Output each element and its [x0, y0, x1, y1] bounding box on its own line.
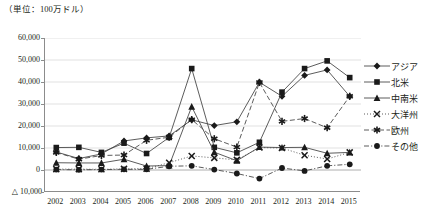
legend-marker-diamond-icon: [364, 59, 390, 73]
series-0: [53, 67, 353, 162]
legend-item-4[interactable]: 欧州: [364, 122, 434, 138]
x-axis-tick-label: 2013: [292, 197, 315, 206]
legend-marker-circle-icon: [364, 139, 390, 153]
unit-label: （単位：100万ドル）: [4, 2, 89, 14]
chart-container: （単位：100万ドル） 60,00050,00040,00030,00020,0…: [0, 0, 434, 214]
y-axis-tick-label: 10,000: [0, 143, 40, 152]
data-point-marker: [324, 58, 330, 64]
y-axis-tick: [41, 192, 44, 193]
x-axis-tick-label: 2010: [225, 197, 248, 206]
data-point-marker: [121, 140, 127, 146]
data-point-marker: [99, 167, 105, 173]
legend-label: 欧州: [391, 124, 409, 137]
data-point-marker: [279, 89, 285, 95]
data-point-marker: [121, 166, 127, 172]
legend-item-5[interactable]: その他: [364, 138, 434, 154]
y-axis-tick: [41, 82, 44, 83]
data-point-marker: [166, 163, 172, 169]
legend-label: その他: [391, 140, 418, 153]
data-point-marker: [324, 156, 330, 162]
y-axis-tick-label: △ 10,000: [0, 187, 42, 196]
x-axis-tick-label: 2002: [44, 197, 67, 206]
legend-marker-square-icon: [364, 75, 390, 89]
x-axis-tick-label: 2009: [202, 197, 225, 206]
x-axis-tick-label: 2011: [247, 197, 270, 206]
chart-legend: アジア北米中南米大洋州欧州その他: [364, 58, 434, 154]
chart-svg: [45, 38, 361, 192]
y-axis-tick-label: 40,000: [0, 77, 40, 86]
data-point-marker: [301, 115, 307, 122]
data-point-marker: [211, 155, 217, 161]
y-axis-tick-label: 60,000: [0, 33, 40, 42]
legend-marker-triangle-icon: [364, 91, 390, 105]
data-point-marker: [144, 166, 150, 172]
data-point-marker: [302, 168, 308, 174]
series-3: [53, 145, 352, 173]
y-axis-tick-label: 50,000: [0, 55, 40, 64]
y-axis-tick-label: 20,000: [0, 121, 40, 130]
x-axis-tick-label: 2004: [89, 197, 112, 206]
data-point-marker: [324, 163, 330, 169]
data-point-marker: [279, 165, 285, 171]
legend-item-2[interactable]: 中南米: [364, 90, 434, 106]
x-axis-tick-label: 2006: [134, 197, 157, 206]
legend-marker-asterisk-icon: [364, 123, 390, 137]
data-point-marker: [233, 118, 240, 125]
y-axis-tick-label: 0: [0, 165, 40, 174]
x-axis-tick-label: 2012: [270, 197, 293, 206]
data-point-marker: [144, 151, 150, 157]
legend-label: 北米: [391, 76, 409, 89]
legend-label: 中南米: [391, 92, 418, 105]
data-point-marker: [374, 79, 380, 85]
x-axis-tick-label: 2005: [112, 197, 135, 206]
data-point-marker: [211, 167, 217, 173]
data-point-marker: [189, 153, 195, 159]
data-point-marker: [76, 145, 82, 151]
data-point-marker: [374, 63, 381, 70]
data-point-marker: [374, 143, 380, 149]
data-point-marker: [347, 161, 353, 167]
x-axis-tick-label: 2007: [157, 197, 180, 206]
legend-item-3[interactable]: 大洋州: [364, 106, 434, 122]
data-point-marker: [211, 122, 218, 129]
data-point-marker: [302, 152, 308, 158]
y-axis-tick: [41, 38, 44, 39]
series-5: [53, 161, 352, 181]
data-point-marker: [234, 144, 240, 151]
series-1: [53, 58, 352, 156]
data-point-marker: [234, 171, 240, 177]
data-point-marker: [347, 75, 353, 81]
y-axis-tick: [41, 148, 44, 149]
legend-marker-x-icon: [364, 107, 390, 121]
y-axis-tick: [41, 60, 44, 61]
x-axis-tick-label: 2015: [337, 197, 360, 206]
data-point-marker: [53, 167, 59, 173]
y-axis-tick-label: 30,000: [0, 99, 40, 108]
data-point-marker: [189, 163, 195, 169]
legend-label: 大洋州: [391, 108, 418, 121]
data-point-marker: [234, 150, 240, 156]
legend-label: アジア: [391, 60, 418, 73]
x-axis-tick-label: 2003: [67, 197, 90, 206]
y-axis-tick: [41, 104, 44, 105]
plot-area: [44, 38, 360, 192]
x-axis-tick-label: 2014: [315, 197, 338, 206]
series-2: [53, 103, 353, 169]
x-axis-tick-label: 2008: [179, 197, 202, 206]
data-point-marker: [76, 167, 82, 173]
legend-item-0[interactable]: アジア: [364, 58, 434, 74]
y-axis-tick: [41, 170, 44, 171]
data-point-marker: [302, 66, 308, 72]
legend-item-1[interactable]: 北米: [364, 74, 434, 90]
data-point-marker: [121, 151, 127, 158]
y-axis-tick: [41, 126, 44, 127]
data-point-marker: [257, 176, 263, 182]
data-point-marker: [189, 66, 195, 72]
data-point-marker: [324, 124, 330, 131]
series-line: [56, 70, 349, 159]
